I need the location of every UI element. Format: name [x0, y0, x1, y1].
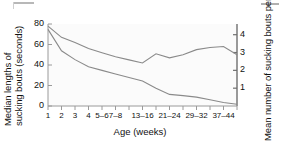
y-axis-left-tick-label: 0 — [28, 100, 44, 110]
y-axis-left-tick-label: 20 — [28, 80, 44, 90]
plot-background — [48, 24, 237, 106]
y-axis-left-tick-label: 40 — [28, 59, 44, 69]
y-axis-right-tick-label: 2 — [240, 64, 252, 74]
y-axis-left-tick-label: 80 — [28, 18, 44, 28]
y-axis-left-tick-label: 60 — [28, 39, 44, 49]
y-axis-right-tick-label: 1 — [240, 82, 252, 92]
chart-figure: Median lengths of sucking bouts (seconds… — [0, 0, 288, 147]
x-axis-ticks — [48, 106, 237, 110]
x-axis-tick-label: 37–44 — [206, 111, 242, 120]
y-axis-right-tick-label: 4 — [240, 29, 252, 39]
y-axis-right-tick-label: 3 — [240, 47, 252, 57]
